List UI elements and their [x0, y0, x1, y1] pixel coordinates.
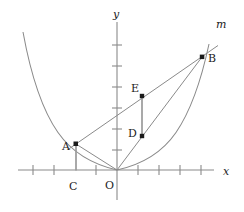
- figure-canvas: A B C D E O y x m: [0, 0, 244, 212]
- label-point-a: A: [61, 140, 71, 153]
- label-x-axis: x: [223, 165, 230, 178]
- point-a-dot: [74, 142, 79, 147]
- label-point-e: E: [131, 82, 139, 95]
- point-d-dot: [140, 134, 144, 138]
- label-point-d: D: [128, 127, 137, 140]
- chord-ob: [117, 57, 202, 170]
- label-y-axis: y: [112, 8, 120, 21]
- label-line-m: m: [216, 18, 226, 31]
- geometry-figure: A B C D E O y x m: [0, 0, 244, 212]
- label-point-c: C: [69, 180, 77, 193]
- point-e-dot: [140, 94, 144, 98]
- parabola-curve: [23, 32, 209, 170]
- label-point-b: B: [208, 52, 216, 65]
- point-b-dot: [200, 55, 205, 60]
- label-origin: O: [105, 179, 114, 192]
